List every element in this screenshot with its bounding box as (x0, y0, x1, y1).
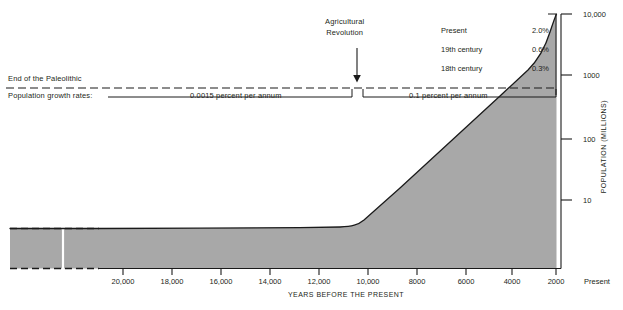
y-tick-label-100: 100 (583, 135, 596, 144)
x-tick-label-12000: 12,000 (308, 277, 331, 286)
y-tick-label-10: 10 (583, 196, 591, 205)
x-tick-label-14000: 14,000 (259, 277, 282, 286)
legend-label-19th-century: 19th century (441, 45, 482, 54)
agricultural-revolution-line1: Agricultural (325, 16, 364, 27)
growth-rate-legend: Present 2.0% 19th century 0.6% 18th cent… (441, 26, 549, 83)
y-tick-label-10000: 10,000 (583, 10, 606, 19)
x-axis-title: YEARS BEFORE THE PRESENT (288, 291, 404, 298)
x-tick-label-20000: 20,000 (112, 277, 135, 286)
x-tick-label-16000: 16,000 (210, 277, 233, 286)
x-tick-label-8000: 8000 (409, 277, 426, 286)
end-of-paleolithic-label: End of the Paleolithic (8, 74, 82, 84)
agricultural-revolution-arrow-head (353, 75, 361, 83)
x-axis (99, 269, 561, 276)
y-axis (561, 14, 572, 269)
agricultural-revolution-label: Agricultural Revolution (325, 16, 364, 39)
population-growth-chart: End of the Paleolithic Population growth… (0, 0, 623, 310)
area-fill-left-a (10, 229, 62, 269)
y-tick-label-1000: 1000 (583, 71, 600, 80)
legend-label-present: Present (441, 26, 467, 35)
legend-value-present: 2.0% (532, 26, 549, 35)
area-fill-left-b (64, 229, 99, 269)
legend-value-18th-century: 0.3% (532, 64, 549, 73)
x-tick-label-2000: 2000 (548, 277, 565, 286)
growth-rate-right-label: 0.1 percent per annum (409, 91, 488, 101)
population-growth-rates-label: Population growth rates: (8, 91, 92, 101)
legend-value-19th-century: 0.6% (532, 45, 549, 54)
x-tick-label-4000: 4000 (504, 277, 521, 286)
x-tick-label-6000: 6000 (458, 277, 475, 286)
legend-row: Present 2.0% (441, 26, 549, 45)
x-tick-label-18000: 18,000 (161, 277, 184, 286)
legend-row: 19th century 0.6% (441, 45, 549, 64)
x-tick-label-10000: 10,000 (357, 277, 380, 286)
agricultural-revolution-line2: Revolution (325, 27, 364, 38)
x-tick-label-present: Present (584, 277, 610, 286)
population-area-left-segment (10, 227, 99, 270)
growth-rate-left-label: 0.0015 percent per annum (190, 91, 282, 101)
legend-label-18th-century: 18th century (441, 64, 482, 73)
legend-row: 18th century 0.3% (441, 64, 549, 83)
y-axis-title: POPULATION (MILLIONS) (600, 100, 607, 193)
